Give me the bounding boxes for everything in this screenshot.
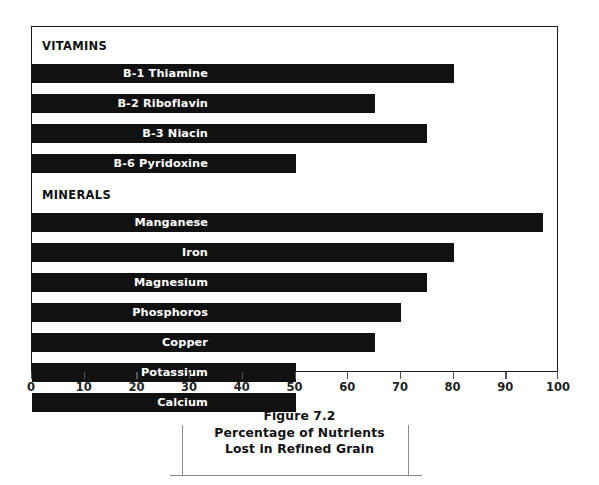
x-tick-mark xyxy=(400,372,401,379)
bar-copper: Copper xyxy=(32,333,375,352)
chart-row: Phosphoros xyxy=(32,303,559,322)
caption-line-3: Lost in Refined Grain xyxy=(0,441,599,458)
chart-row: B-6 Pyridoxine xyxy=(32,154,559,173)
x-tick-label: 20 xyxy=(128,380,144,394)
bar-b-3-niacin: B-3 Niacin xyxy=(32,124,427,143)
bar-b-2-riboflavin: B-2 Riboflavin xyxy=(32,94,375,113)
plot-frame: VITAMINSB-1 ThiamineB-2 RiboflavinB-3 Ni… xyxy=(31,26,558,372)
bar-magnesium: Magnesium xyxy=(32,273,427,292)
x-tick-mark xyxy=(31,372,32,379)
x-tick-mark xyxy=(453,372,454,379)
bar-label: Magnesium xyxy=(32,273,208,292)
bar-label: Phosphoros xyxy=(32,303,208,322)
x-tick-label: 80 xyxy=(445,380,461,394)
bar-label: B-1 Thiamine xyxy=(32,64,208,83)
chart-row: Iron xyxy=(32,243,559,262)
bar-phosphoros: Phosphoros xyxy=(32,303,401,322)
bar-label: B-6 Pyridoxine xyxy=(32,154,208,173)
x-tick-mark xyxy=(136,372,137,379)
x-tick-label: 50 xyxy=(286,380,302,394)
x-axis: 0102030405060708090100 xyxy=(31,372,558,400)
plot-area: VITAMINSB-1 ThiamineB-2 RiboflavinB-3 Ni… xyxy=(32,27,557,371)
caption-line-2: Percentage of Nutrients xyxy=(0,425,599,442)
chart-row: B-2 Riboflavin xyxy=(32,94,559,113)
caption-bracket-right xyxy=(408,425,409,475)
x-tick-mark xyxy=(505,372,506,379)
figure-caption: Figure 7.2 Percentage of Nutrients Lost … xyxy=(0,408,599,458)
section-header-vitamins: VITAMINS xyxy=(42,37,107,56)
bar-label: B-2 Riboflavin xyxy=(32,94,208,113)
bar-label: Iron xyxy=(32,243,208,262)
x-tick-mark xyxy=(84,372,85,379)
x-tick-mark xyxy=(295,372,296,379)
bar-label: Copper xyxy=(32,333,208,352)
bar-b-6-pyridoxine: B-6 Pyridoxine xyxy=(32,154,296,173)
x-tick-label: 40 xyxy=(234,380,250,394)
figure-container: VITAMINSB-1 ThiamineB-2 RiboflavinB-3 Ni… xyxy=(0,0,599,485)
x-tick-label: 0 xyxy=(27,380,35,394)
chart-row: B-3 Niacin xyxy=(32,124,559,143)
caption-line-1: Figure 7.2 xyxy=(0,408,599,425)
section-header-minerals: MINERALS xyxy=(42,186,111,205)
bar-label: Manganese xyxy=(32,213,208,232)
x-tick-mark xyxy=(242,372,243,379)
x-tick-mark xyxy=(347,372,348,379)
x-tick-label: 10 xyxy=(76,380,92,394)
chart-row: Magnesium xyxy=(32,273,559,292)
bar-iron: Iron xyxy=(32,243,454,262)
bar-manganese: Manganese xyxy=(32,213,543,232)
x-tick-label: 30 xyxy=(181,380,197,394)
chart-row: B-1 Thiamine xyxy=(32,64,559,83)
chart-row: Manganese xyxy=(32,213,559,232)
x-tick-label: 70 xyxy=(392,380,408,394)
x-tick-mark xyxy=(557,372,558,379)
x-tick-label: 60 xyxy=(339,380,355,394)
x-tick-label: 90 xyxy=(497,380,513,394)
bar-label: B-3 Niacin xyxy=(32,124,208,143)
x-tick-label: 100 xyxy=(546,380,570,394)
chart-row: Copper xyxy=(32,333,559,352)
x-tick-mark xyxy=(189,372,190,379)
caption-bracket-left xyxy=(182,425,183,475)
caption-bracket-bottom xyxy=(170,475,422,476)
bar-b-1-thiamine: B-1 Thiamine xyxy=(32,64,454,83)
